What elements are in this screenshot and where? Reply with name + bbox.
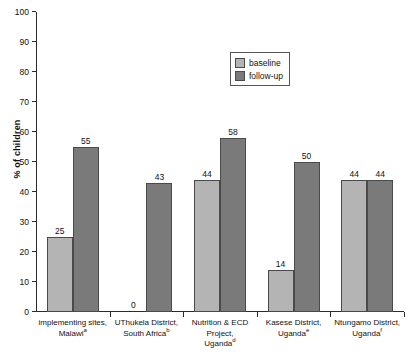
footnote-marker: b [166,327,169,333]
x-axis-separator-tick [257,312,258,317]
x-axis-category-label: implementing sites,Malawia [36,318,110,339]
y-axis-tick-label: 80 [20,67,29,77]
bar-baseline[interactable]: 44 [341,180,367,312]
legend: baseline follow-up [230,52,290,86]
footnote-marker: e [306,327,309,333]
bar-value-label: 14 [276,259,285,269]
legend-swatch-followup-icon [235,71,245,81]
y-axis-tick-label: 70 [20,97,29,107]
x-axis-separator-tick [110,312,111,317]
bar-follow-up[interactable]: 44 [367,180,393,312]
bar-group: 043 [110,12,184,312]
bar-value-label: 25 [55,226,64,236]
bar-value-label: 44 [375,169,384,179]
bar-baseline[interactable]: 14 [268,270,294,312]
y-axis-tick-label: 30 [20,217,29,227]
y-axis-tick-label: 20 [20,247,29,257]
x-axis-category-label: Nutrition & ECDProject,Ugandad [183,318,257,350]
y-axis-tick-label: 60 [20,127,29,137]
category-label-line: UThukela District, [110,318,184,329]
category-label-line: Malawia [36,329,110,340]
legend-item-followup[interactable]: follow-up [235,69,283,82]
category-label-line: Kasese District, [257,318,331,329]
x-axis-category-label: Kasese District,Ugandae [257,318,331,339]
bar-value-label: 0 [131,300,136,310]
y-axis-tick-label: 10 [20,277,29,287]
bar-follow-up[interactable]: 43 [146,183,172,312]
legend-label-baseline: baseline [249,58,281,68]
category-label-line: South Africab [110,329,184,340]
bar-value-label: 44 [349,169,358,179]
x-axis-separator-tick [404,312,405,317]
y-axis-tick-label: 0 [24,307,29,317]
category-label-line: Nutrition & ECD [183,318,257,329]
legend-label-followup: follow-up [249,71,283,81]
x-axis-category-labels: implementing sites,MalawiaUThukela Distr… [36,318,404,359]
bar-group: 4444 [330,12,404,312]
bar-value-label: 43 [155,172,164,182]
y-axis-label: % of children [12,99,22,199]
plot-area: 1009080706050403020100 25550434458145044… [36,12,404,312]
category-label-line: Ntungamo District, [330,318,404,329]
bar-follow-up[interactable]: 50 [294,162,320,312]
bar-value-label: 44 [202,169,211,179]
bar-value-label: 55 [81,136,90,146]
x-axis-separator-tick [183,312,184,317]
category-label-line: implementing sites, [36,318,110,329]
bar-chart: % of children 1009080706050403020100 255… [0,0,407,359]
y-axis-tick-label: 90 [20,37,29,47]
bar-baseline[interactable]: 25 [47,237,73,312]
bar-follow-up[interactable]: 58 [220,138,246,312]
bar-value-label: 50 [302,151,311,161]
category-label-line: Project, [183,329,257,340]
y-axis-tick-label: 100 [15,7,29,17]
bar-group: 2555 [36,12,110,312]
x-axis-category-label: Ntungamo District,Ugandaf [330,318,404,339]
footnote-marker: a [84,327,87,333]
footnote-marker: f [380,327,382,333]
category-label-line: Ugandaf [330,329,404,340]
legend-swatch-baseline-icon [235,58,245,68]
category-label-line: Ugandae [257,329,331,340]
x-axis-separator-tick [330,312,331,317]
category-label-line: Ugandad [183,339,257,350]
footnote-marker: d [232,337,235,343]
legend-item-baseline[interactable]: baseline [235,56,283,69]
bar-value-label: 58 [228,127,237,137]
bar-follow-up[interactable]: 55 [73,147,99,312]
bar-baseline[interactable]: 44 [194,180,220,312]
y-axis-tick-label: 50 [20,157,29,167]
y-axis-tick-label: 40 [20,187,29,197]
x-axis-category-label: UThukela District,South Africab [110,318,184,339]
